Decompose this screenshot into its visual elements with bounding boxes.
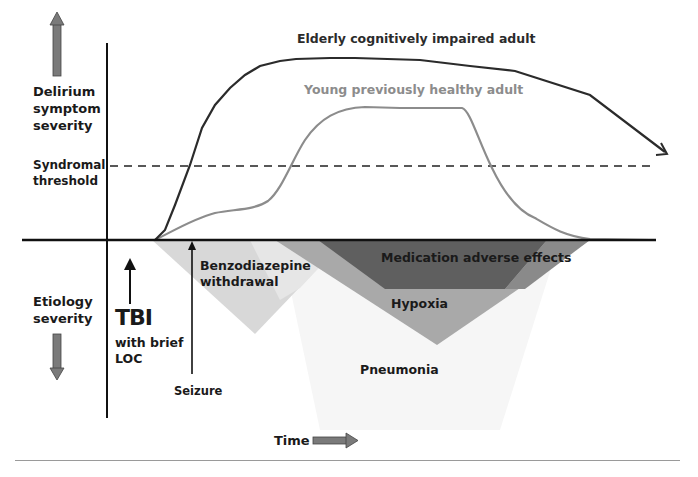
medication-adverse-effects-label: Medication adverse effects — [381, 249, 571, 266]
young-adult-curve — [155, 107, 650, 240]
young-curve-label: Young previously healthy adult — [304, 82, 523, 97]
benzo-label-line-2: withdrawal — [200, 274, 311, 290]
delirium-label-line-3: severity — [33, 117, 101, 134]
time-axis-label: Time — [274, 432, 310, 449]
benzodiazepine-withdrawal-label: Benzodiazepine withdrawal — [200, 258, 311, 290]
benzo-label-line-1: Benzodiazepine — [200, 258, 311, 274]
gray-up-arrow-icon — [50, 12, 64, 76]
delirium-label-line-2: symptom — [33, 100, 101, 117]
pneumonia-label: Pneumonia — [360, 361, 439, 378]
gray-down-arrow-icon — [50, 334, 64, 380]
tbi-arrow-head — [124, 258, 136, 270]
threshold-label-line-2: threshold — [33, 173, 105, 189]
tbi-subtitle: with brief LOC — [115, 335, 183, 367]
tbi-title: TBI — [115, 305, 152, 330]
gray-right-arrow-icon — [313, 433, 358, 448]
delirium-severity-label: Delirium symptom severity — [33, 83, 101, 134]
threshold-label-line-1: Syndromal — [33, 157, 105, 173]
delirium-etiology-diagram: Delirium symptom severity Syndromal thre… — [0, 0, 698, 477]
tbi-sub-line-2: LOC — [115, 351, 183, 367]
etiology-severity-label: Etiology severity — [33, 293, 93, 327]
elderly-curve-label: Elderly cognitively impaired adult — [297, 31, 535, 46]
diagram-canvas — [0, 0, 698, 477]
syndromal-threshold-label: Syndromal threshold — [33, 157, 105, 189]
delirium-label-line-1: Delirium — [33, 83, 101, 100]
etiology-label-line-1: Etiology — [33, 293, 93, 310]
hypoxia-label: Hypoxia — [391, 295, 448, 312]
tbi-sub-line-1: with brief — [115, 335, 183, 351]
seizure-label: Seizure — [174, 383, 222, 400]
etiology-label-line-2: severity — [33, 310, 93, 327]
footer-divider — [15, 460, 680, 461]
